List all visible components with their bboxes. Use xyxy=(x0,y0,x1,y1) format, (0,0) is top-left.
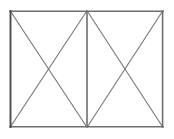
figure-canvas xyxy=(0,0,174,139)
geometric-figure-svg xyxy=(0,0,174,139)
